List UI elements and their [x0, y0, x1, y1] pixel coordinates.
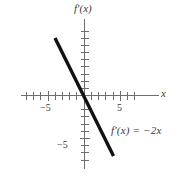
- y-tick-label-negative-5: −5: [57, 140, 68, 150]
- equation-annotation: f′(x) = −2x: [111, 125, 162, 136]
- derivative-graph-figure: f′(x) x −5 5 −5 f′(x) = −2x: [0, 0, 179, 179]
- plot-canvas: [0, 0, 179, 179]
- x-axis-label: x: [161, 88, 166, 99]
- y-axis-label: f′(x): [74, 3, 92, 14]
- x-tick-label-positive-5: 5: [117, 103, 122, 113]
- x-axis-group: [21, 91, 159, 101]
- x-tick-label-negative-5: −5: [40, 103, 51, 113]
